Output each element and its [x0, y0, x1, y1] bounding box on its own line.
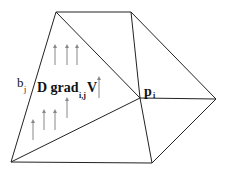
edge-tr-pi	[131, 12, 140, 98]
label-p: p	[144, 84, 152, 99]
label-b: b	[17, 75, 24, 90]
label-b-subscript: j	[23, 85, 26, 94]
label-d-grad-v: D grad i,j V	[37, 80, 97, 100]
label-p-i: p i	[144, 84, 156, 100]
edge-br-pi	[140, 98, 152, 163]
edge-br-bl	[11, 162, 152, 163]
label-d-grad: D grad	[37, 80, 79, 95]
mesh-diagram: b j D grad i,j V p i	[0, 0, 232, 175]
edge-bl-pi	[11, 98, 140, 162]
label-v: V	[87, 80, 97, 95]
edge-right-br	[152, 99, 216, 163]
label-b-j: b j	[17, 75, 26, 94]
label-grad-subscript: i,j	[79, 91, 86, 100]
